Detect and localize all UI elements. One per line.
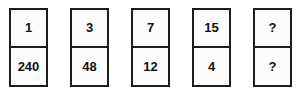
number-card-row: 1 240 3 48 7 12 15 4 ? ? <box>9 8 292 87</box>
number-card: 3 48 <box>70 8 109 87</box>
number-card: 1 240 <box>9 8 48 87</box>
card-top-value: 7 <box>147 21 154 34</box>
card-bottom-value: 240 <box>18 60 40 73</box>
card-top-cell: 15 <box>194 10 229 48</box>
card-bottom-cell: 4 <box>194 48 229 86</box>
card-top-value: 15 <box>204 21 218 34</box>
card-top-cell: 7 <box>133 10 168 48</box>
card-bottom-cell: ? <box>255 48 290 86</box>
card-bottom-cell: 12 <box>133 48 168 86</box>
number-card: 7 12 <box>131 8 170 87</box>
number-card: 15 4 <box>192 8 231 87</box>
card-bottom-value-unknown: ? <box>269 60 277 73</box>
card-bottom-value: 48 <box>82 60 96 73</box>
card-bottom-value: 4 <box>208 60 215 73</box>
card-top-cell: 3 <box>72 10 107 48</box>
number-card-unknown: ? ? <box>253 8 292 87</box>
card-top-cell: ? <box>255 10 290 48</box>
card-top-cell: 1 <box>11 10 46 48</box>
card-bottom-value: 12 <box>143 60 157 73</box>
card-top-value: 1 <box>25 21 32 34</box>
card-top-value-unknown: ? <box>269 21 277 34</box>
card-bottom-cell: 48 <box>72 48 107 86</box>
card-bottom-cell: 240 <box>11 48 46 86</box>
card-top-value: 3 <box>86 21 93 34</box>
